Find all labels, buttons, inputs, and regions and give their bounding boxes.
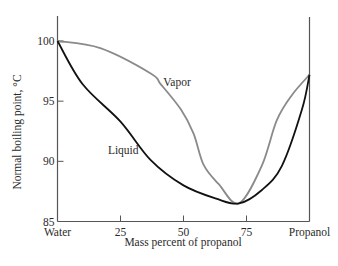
y-tick-label: 85: [43, 216, 55, 228]
liquid-label: Liquid: [108, 144, 139, 157]
y-tick-label: 95: [43, 95, 55, 107]
vapor-curve: [58, 41, 310, 204]
y-tick-label: 100: [37, 35, 55, 47]
y-tick-label: 90: [43, 155, 55, 167]
vapor-label: Vapor: [163, 76, 191, 89]
tick-labels: Water255075Propanol859095100: [37, 35, 330, 239]
x-tick-label: Propanol: [289, 226, 331, 239]
liquid-curve: [58, 41, 310, 204]
x-axis-label: Mass percent of propanol: [124, 236, 241, 249]
x-tick-label: 75: [241, 226, 253, 238]
y-axis-label: Normal boiling point, °C: [11, 74, 24, 189]
boiling-point-diagram: Water255075Propanol859095100 Vapor Liqui…: [0, 0, 338, 266]
ticks: [58, 41, 247, 222]
